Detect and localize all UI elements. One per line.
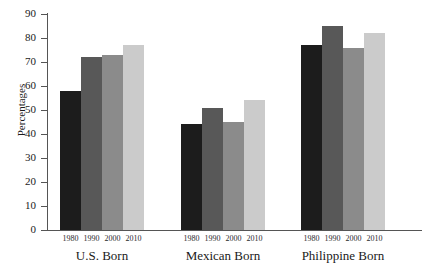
bar [322,26,343,230]
bar [301,45,322,230]
bar [364,33,385,230]
plot-area [47,14,421,230]
y-axis-tick-label: 30 [8,152,36,163]
x-axis-year-label: 2000 [223,234,244,243]
bar [343,48,364,230]
x-axis-year-label: 1980 [181,234,202,243]
x-axis-year-label: 2010 [244,234,265,243]
group-year-labels: 1980199020002010 [181,234,265,243]
x-axis-year-label: 1980 [60,234,81,243]
y-axis-tick-label: 90 [8,8,36,19]
bar [223,122,244,230]
y-axis-tick-label: 80 [8,32,36,43]
x-axis-year-label: 1990 [322,234,343,243]
y-axis-tick-label: 10 [8,200,36,211]
bar [181,124,202,230]
y-axis-tick-label: 60 [8,80,36,91]
bar [123,45,144,230]
x-axis-group-label: Philippine Born [271,248,415,263]
y-axis-ticks: 0102030405060708090 [0,0,47,278]
bar [81,57,102,230]
group-year-labels: 1980199020002010 [301,234,385,243]
x-axis-year-label: 2000 [343,234,364,243]
x-axis-year-label: 1980 [301,234,322,243]
x-axis-year-label: 2010 [123,234,144,243]
y-axis-tick-label: 50 [8,104,36,115]
group-year-labels: 1980199020002010 [60,234,144,243]
y-axis-tick-label: 0 [8,224,36,235]
bar [244,100,265,230]
bar [60,91,81,230]
x-axis-year-label: 1990 [202,234,223,243]
chart-title: Adult Urbanized Women [0,0,424,1]
y-axis-tick-label: 40 [8,128,36,139]
y-axis-tick-label: 70 [8,56,36,67]
y-axis-tick-label: 20 [8,176,36,187]
bar [202,108,223,230]
x-axis-year-label: 1990 [81,234,102,243]
x-axis-line [47,230,422,231]
x-axis-year-label: 2000 [102,234,123,243]
x-axis-year-label: 2010 [364,234,385,243]
bar [102,55,123,230]
bar-chart: Adult Urbanized Women Percentages 010203… [0,0,424,278]
